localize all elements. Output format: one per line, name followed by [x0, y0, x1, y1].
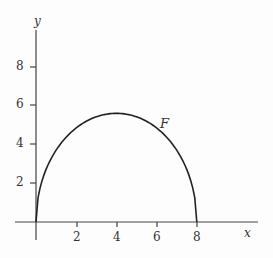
curve-label: F [160, 116, 169, 131]
x-tick-label: 8 [193, 230, 201, 244]
x-axis-label: x [244, 226, 251, 240]
y-tick-label: 2 [16, 175, 24, 189]
y-tick-label: 6 [16, 97, 24, 111]
x-tick-label: 4 [113, 230, 121, 244]
y-axis-label: y [34, 14, 41, 28]
plot-area [0, 0, 273, 258]
y-tick-label: 4 [16, 136, 24, 150]
chart: y x F 8 6 4 2 2 4 6 8 [0, 0, 273, 258]
x-tick-label: 2 [73, 230, 81, 244]
curve-F [36, 113, 197, 222]
y-tick-label: 8 [16, 59, 24, 73]
x-tick-label: 6 [153, 230, 161, 244]
